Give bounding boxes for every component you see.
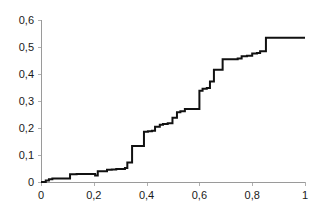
x-tick-label: 0,2 <box>86 189 101 201</box>
chart-container: 00,10,20,30,40,50,6 00,20,40,60,81 <box>0 0 327 217</box>
x-tick-label: 1 <box>302 189 308 201</box>
y-tick-label: 0,6 <box>19 14 34 26</box>
x-tick-label: 0,8 <box>245 189 260 201</box>
chart-background <box>0 0 327 217</box>
x-tick-label: 0,6 <box>192 189 207 201</box>
y-tick-label: 0,2 <box>19 122 34 134</box>
y-tick-label: 0,3 <box>19 95 34 107</box>
y-tick-label: 0 <box>28 176 34 188</box>
y-tick-label: 0,1 <box>19 149 34 161</box>
x-tick-label: 0,4 <box>139 189 154 201</box>
y-tick-label: 0,5 <box>19 41 34 53</box>
step-chart: 00,10,20,30,40,50,6 00,20,40,60,81 <box>0 0 327 217</box>
x-tick-label: 0 <box>38 189 44 201</box>
y-tick-label: 0,4 <box>19 68 34 80</box>
